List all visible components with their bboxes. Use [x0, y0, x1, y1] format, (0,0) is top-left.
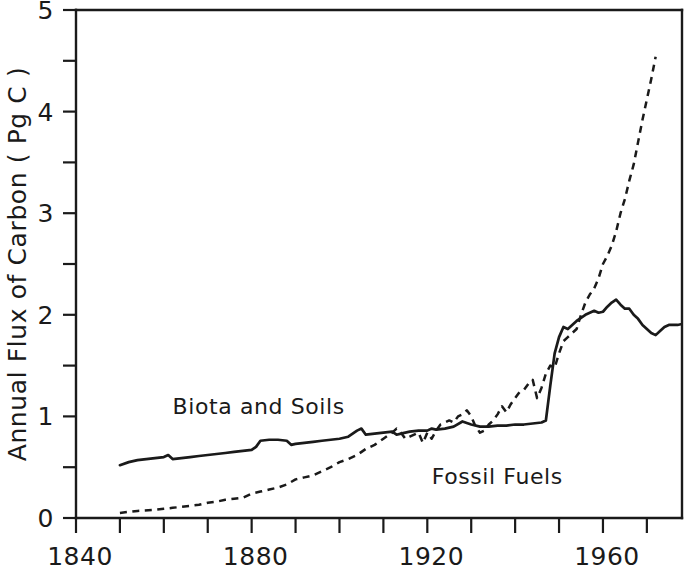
y-tick-label: 5 [38, 0, 54, 25]
series-label-biota-and-soils: Biota and Soils [173, 394, 345, 419]
x-axis-ticks [76, 517, 647, 533]
series-line-biota-and-soils [120, 300, 682, 466]
y-tick-label: 2 [38, 301, 54, 330]
series-label-fossil-fuels: Fossil Fuels [432, 464, 563, 489]
chart-canvas: Annual Flux of Carbon ( Pg C ) 012345 18… [0, 0, 699, 575]
x-tick-label: 1840 [47, 542, 113, 571]
y-tick-label: 0 [38, 504, 54, 533]
y-tick-label: 1 [38, 402, 54, 431]
x-axis-tick-labels: 1840188019201960 [47, 542, 640, 571]
x-tick-label: 1960 [574, 542, 640, 571]
y-tick-label: 4 [38, 98, 54, 127]
plot-axes [76, 10, 682, 518]
y-axis-tick-labels: 012345 [38, 0, 54, 533]
data-series-layer [120, 57, 682, 513]
y-axis-title: Annual Flux of Carbon ( Pg C ) [3, 67, 32, 462]
y-tick-label: 3 [38, 199, 54, 228]
x-tick-label: 1920 [398, 542, 464, 571]
carbon-flux-figure: Annual Flux of Carbon ( Pg C ) 012345 18… [0, 0, 699, 575]
series-line-fossil-fuels [120, 57, 656, 513]
x-tick-label: 1880 [223, 542, 289, 571]
